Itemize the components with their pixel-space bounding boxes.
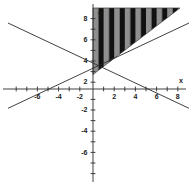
x-tick-label-minus4: -4	[55, 93, 61, 100]
y-tick-label-6: 6	[84, 36, 88, 43]
y-tick-label-8: 8	[84, 15, 88, 22]
x-tick-label-8: 8	[176, 93, 180, 100]
x-tick-label-6: 6	[155, 93, 159, 100]
x-tick-label-minus2: -2	[77, 93, 83, 100]
y-tick-label-4: 4	[84, 57, 88, 64]
coordinate-plane-svg: -6 -4 -2 2 4 6 8 8 6 4 2 -2 -4 -6 x y	[0, 0, 195, 186]
y-axis-name-label: y	[98, 10, 102, 18]
y-tick-label-minus6: -6	[81, 149, 87, 156]
y-tick-label-minus4: -4	[81, 127, 87, 134]
x-tick-label-4: 4	[133, 93, 137, 100]
graph-figure: -6 -4 -2 2 4 6 8 8 6 4 2 -2 -4 -6 x y	[0, 0, 195, 186]
shaded-region	[93, 8, 180, 75]
x-axis	[3, 87, 186, 92]
x-tick-label-2: 2	[112, 93, 116, 100]
y-tick-label-minus2: -2	[81, 106, 87, 113]
x-axis-name-label: x	[179, 77, 183, 84]
x-tick-label-minus6: -6	[34, 93, 40, 100]
y-tick-label-2: 2	[84, 78, 88, 85]
